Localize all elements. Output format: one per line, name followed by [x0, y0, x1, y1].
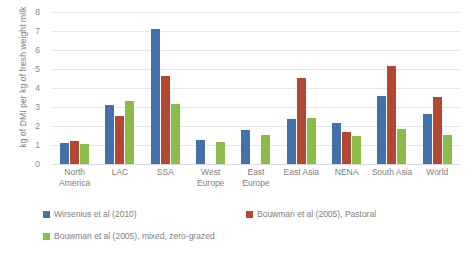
bar[interactable] — [105, 105, 114, 164]
x-axis-tick-label: East Asia — [279, 167, 324, 195]
bar[interactable] — [307, 118, 316, 164]
y-axis-tick-label: 1 — [0, 140, 40, 150]
bar-group — [369, 12, 414, 164]
x-axis-tick-label: East Europe — [233, 167, 278, 195]
bar[interactable] — [332, 123, 341, 164]
bar[interactable] — [60, 143, 69, 164]
legend-label-1: Bouwman et al (2005), Pastoral — [257, 209, 376, 219]
bar[interactable] — [443, 135, 452, 164]
bar[interactable] — [241, 130, 250, 164]
bar[interactable] — [171, 104, 180, 164]
x-axis-tick-label: NENA — [324, 167, 369, 195]
bar[interactable] — [287, 119, 296, 164]
y-axis-tick-label: 2 — [0, 121, 40, 131]
bar-group — [188, 12, 233, 164]
bar-group — [415, 12, 460, 164]
x-axis-tick-label: SSA — [143, 167, 188, 195]
legend-label-2: Bouwman et al (2005), mixed, zero-grazed — [54, 231, 215, 241]
bar[interactable] — [377, 96, 386, 164]
bar[interactable] — [397, 129, 406, 164]
x-axis-tick-labels: North AmericaLACSSAWest EuropeEast Europ… — [52, 167, 460, 195]
bar-chart: kg of DMI per kg of fresh weight milk 01… — [0, 0, 472, 259]
bar[interactable] — [151, 29, 160, 164]
y-axis-tick-label: 6 — [0, 45, 40, 55]
bar-group — [233, 12, 278, 164]
bar-group — [97, 12, 142, 164]
y-axis-tick-label: 8 — [0, 7, 40, 17]
y-axis-tick-label: 5 — [0, 64, 40, 74]
bar-group — [324, 12, 369, 164]
bar[interactable] — [70, 141, 79, 164]
legend-item-2[interactable]: Bouwman et al (2005), mixed, zero-grazed — [43, 231, 215, 241]
gridline — [52, 164, 460, 165]
legend-item-0[interactable]: Wirsenius et al (2010) — [43, 209, 137, 219]
y-axis-tick-label: 3 — [0, 102, 40, 112]
x-axis-tick-label: South Asia — [369, 167, 414, 195]
bar[interactable] — [297, 78, 306, 164]
x-axis-tick-label: West Europe — [188, 167, 233, 195]
bar[interactable] — [216, 142, 225, 164]
legend-label-0: Wirsenius et al (2010) — [54, 209, 137, 219]
bar[interactable] — [352, 136, 361, 164]
y-axis-tick-labels: 012345678 — [0, 12, 50, 164]
legend-swatch-icon-2 — [43, 233, 50, 240]
bar-group — [279, 12, 324, 164]
chart-legend: Wirsenius et al (2010) Bouwman et al (20… — [40, 207, 460, 253]
bar[interactable] — [161, 76, 170, 164]
plot-area — [52, 12, 460, 164]
y-axis-tick-label: 7 — [0, 26, 40, 36]
bar[interactable] — [423, 114, 432, 164]
bar[interactable] — [125, 101, 134, 164]
x-axis-tick-label: LAC — [97, 167, 142, 195]
y-axis-tick-label: 0 — [0, 159, 40, 169]
x-axis-tick-label: North America — [52, 167, 97, 195]
bar-groups — [52, 12, 460, 164]
bar-group — [143, 12, 188, 164]
y-axis-tick-label: 4 — [0, 83, 40, 93]
bar-group — [52, 12, 97, 164]
legend-swatch-icon-1 — [246, 211, 253, 218]
bar[interactable] — [80, 144, 89, 164]
x-axis-tick-label: World — [415, 167, 460, 195]
legend-item-1[interactable]: Bouwman et al (2005), Pastoral — [246, 209, 376, 219]
bar[interactable] — [387, 66, 396, 164]
bar[interactable] — [261, 135, 270, 164]
legend-swatch-icon-0 — [43, 211, 50, 218]
bar[interactable] — [196, 140, 205, 164]
bar[interactable] — [342, 132, 351, 164]
bar[interactable] — [115, 116, 124, 164]
bar[interactable] — [433, 97, 442, 164]
